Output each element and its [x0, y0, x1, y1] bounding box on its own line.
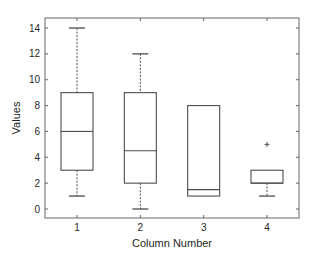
x-tick-label: 3	[201, 222, 207, 233]
y-tick-label: 2	[34, 178, 40, 189]
y-tick-label: 12	[29, 48, 41, 59]
y-tick-label: 4	[34, 152, 40, 163]
y-tick-label: 10	[29, 74, 41, 85]
x-tick-label: 4	[264, 222, 270, 233]
y-tick-label: 6	[34, 126, 40, 137]
y-axis-title: Values	[10, 101, 22, 134]
plot-area	[45, 18, 299, 218]
box-plot-chart: 02468101214 1234 Column Number Values	[0, 0, 315, 259]
y-tick-label: 8	[34, 100, 40, 111]
x-tick-label: 2	[138, 222, 144, 233]
y-tick-label: 14	[29, 23, 41, 34]
x-tick-label: 1	[74, 222, 80, 233]
axes-frame	[45, 18, 299, 218]
x-axis-title: Column Number	[132, 237, 212, 249]
y-tick-label: 0	[34, 204, 40, 215]
